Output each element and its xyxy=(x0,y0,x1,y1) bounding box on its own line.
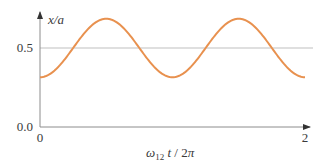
x-axis-label: ω12 t / 2π xyxy=(146,145,195,162)
line-chart: 0.00.5 02 x/a ω12 t / 2π xyxy=(0,0,334,162)
y-tick-labels: 0.00.5 xyxy=(17,40,33,134)
x-tick-label-0: 0 xyxy=(37,130,44,145)
y-tick-label-1: 0.5 xyxy=(17,40,33,55)
x-label-omega: ω xyxy=(146,145,155,160)
x-tick-labels: 02 xyxy=(37,130,309,145)
y-axis-label: x/a xyxy=(47,12,64,27)
y-tick-label-0: 0.0 xyxy=(17,119,33,134)
x-tick-label-1: 2 xyxy=(302,130,309,145)
x-label-pi: π xyxy=(188,145,195,160)
x-label-divisor: / 2 xyxy=(171,145,188,160)
x-label-subscript: 12 xyxy=(155,152,164,162)
